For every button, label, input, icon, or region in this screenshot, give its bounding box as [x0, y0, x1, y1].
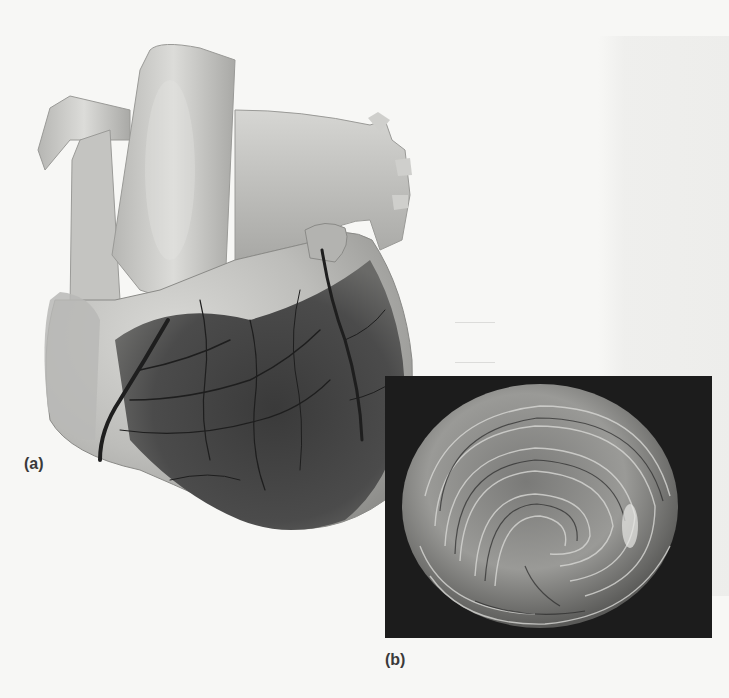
aorta-highlight [145, 80, 195, 260]
panel-label-a: (a) [24, 455, 44, 473]
muscle-fiber-swirl [385, 376, 712, 638]
panel-label-b: (b) [385, 651, 405, 669]
arch-branch [392, 195, 408, 210]
right-atrium [44, 292, 100, 440]
superior-vena-cava [70, 130, 120, 310]
muscle-fiber-inset [385, 376, 712, 638]
arch-branch [395, 158, 412, 176]
specular-highlight [622, 504, 638, 548]
